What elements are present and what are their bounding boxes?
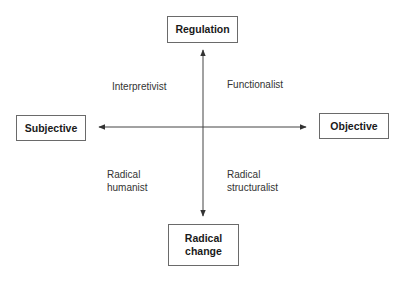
subjective-box: Subjective [16, 115, 86, 141]
radical-change-box: Radical change [168, 224, 239, 266]
radical-change-label-line2: change [185, 245, 222, 258]
quadrant-radical-structuralist: Radical structuralist [227, 168, 278, 194]
radical-structuralist-line2: structuralist [227, 181, 278, 194]
quadrant-functionalist: Functionalist [227, 78, 283, 91]
regulation-label: Regulation [175, 23, 229, 36]
functionalist-label: Functionalist [227, 79, 283, 90]
objective-label: Objective [330, 120, 377, 133]
regulation-box: Regulation [167, 16, 238, 43]
radical-structuralist-line1: Radical [227, 168, 278, 181]
objective-box: Objective [319, 113, 389, 139]
quadrant-interpretivist: Interpretivist [112, 80, 166, 93]
radical-humanist-line1: Radical [107, 168, 148, 181]
radical-change-label-line1: Radical [185, 232, 222, 245]
subjective-label: Subjective [25, 122, 78, 135]
radical-humanist-line2: humanist [107, 181, 148, 194]
interpretivist-label: Interpretivist [112, 81, 166, 92]
quadrant-radical-humanist: Radical humanist [107, 168, 148, 194]
